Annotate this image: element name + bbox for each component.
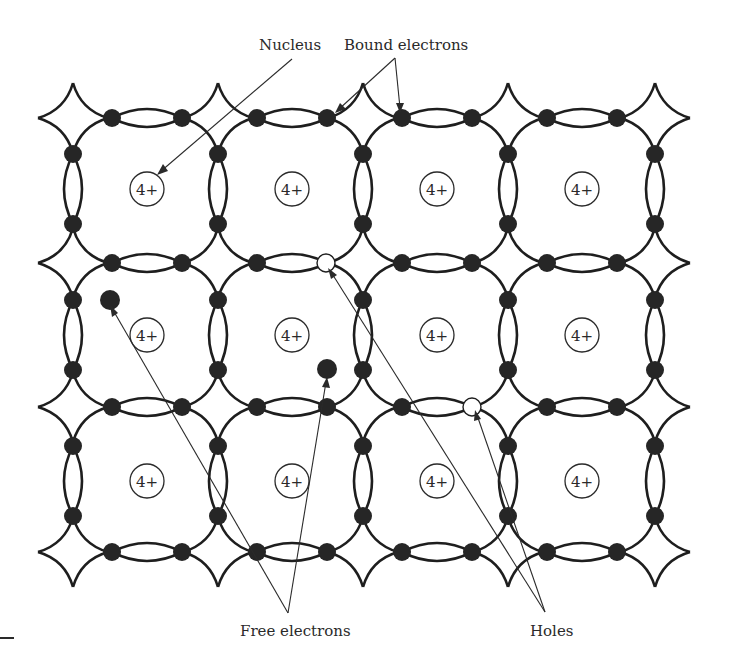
nucleus-charge: 4+ — [281, 473, 303, 491]
bond-lens — [112, 109, 182, 127]
bond-arc — [508, 407, 543, 442]
nucleus-charge: 4+ — [136, 473, 158, 491]
bond-arc — [218, 83, 253, 118]
bond-arc — [620, 407, 655, 442]
bond-lens — [112, 254, 182, 272]
nucleus-charge: 4+ — [281, 181, 303, 199]
bound-electron — [64, 215, 82, 233]
bound-electron — [538, 398, 556, 416]
holes-label: Holes — [530, 622, 573, 640]
bound-electron — [646, 215, 664, 233]
bond-arc — [655, 83, 690, 118]
bound-electron — [499, 291, 517, 309]
bond-lens — [64, 300, 82, 370]
bond-arc — [363, 228, 398, 263]
bound-electron — [393, 543, 411, 561]
bound-electron — [499, 437, 517, 455]
bond-lens — [112, 398, 182, 416]
bond-arc — [508, 83, 543, 118]
bond-lens — [354, 154, 372, 224]
bond-arc — [73, 83, 108, 118]
nucleus: 4+ — [565, 172, 599, 206]
bound-electron — [64, 437, 82, 455]
bond-arc — [620, 552, 655, 587]
bond-arc — [38, 228, 73, 263]
bound-electron — [608, 254, 626, 272]
bond-arc — [655, 407, 690, 442]
bound-electron — [538, 109, 556, 127]
nucleus: 4+ — [130, 318, 164, 352]
bound-electron — [209, 507, 227, 525]
bound-electron — [646, 291, 664, 309]
nucleus: 4+ — [565, 464, 599, 498]
bound-electron — [646, 437, 664, 455]
bound-electron — [393, 254, 411, 272]
bound-electron — [209, 291, 227, 309]
bound-electron — [173, 543, 191, 561]
holes — [317, 254, 481, 416]
bond-lens — [402, 109, 472, 127]
bound-electron — [463, 254, 481, 272]
bond-lens — [646, 446, 664, 516]
nucleus-charge: 4+ — [571, 181, 593, 199]
bound-electron — [64, 291, 82, 309]
bound-electron — [393, 398, 411, 416]
bond-lens — [402, 543, 472, 561]
bond-lens — [547, 254, 617, 272]
bond-lens — [646, 300, 664, 370]
nucleus: 4+ — [275, 318, 309, 352]
bound-electron — [354, 291, 372, 309]
nucleus-charge: 4+ — [571, 473, 593, 491]
bound-electron — [538, 254, 556, 272]
nucleus-charge: 4+ — [571, 327, 593, 345]
nucleus: 4+ — [130, 172, 164, 206]
nucleus: 4+ — [420, 464, 454, 498]
bound-electron — [209, 215, 227, 233]
bond-arc — [73, 552, 108, 587]
bound-electron — [64, 361, 82, 379]
nucleus: 4+ — [420, 318, 454, 352]
bond-arc — [38, 83, 73, 118]
bound-electron — [646, 507, 664, 525]
bound-electron — [64, 507, 82, 525]
bound-electron — [248, 398, 266, 416]
bond-arc — [218, 552, 253, 587]
bound-electron — [209, 361, 227, 379]
bound-electron — [499, 145, 517, 163]
bond-arc — [363, 407, 398, 442]
bond-lens — [402, 254, 472, 272]
bond-arc — [38, 407, 73, 442]
bound-electrons-label: Bound electrons — [344, 36, 468, 54]
bound-electron — [354, 215, 372, 233]
semiconductor-lattice-diagram: 4+4+4+4+4+4+4+4+4+4+4+4+ Nucleus Bound e… — [0, 0, 740, 656]
bound-electron — [103, 543, 121, 561]
bound-electron — [608, 109, 626, 127]
bound-electron — [173, 109, 191, 127]
bond-arc — [73, 228, 108, 263]
bond-lens — [257, 543, 327, 561]
bond-arc — [73, 407, 108, 442]
bound-electron — [209, 437, 227, 455]
free-electron — [317, 359, 337, 379]
nucleus-charge: 4+ — [426, 181, 448, 199]
bound-electron — [103, 254, 121, 272]
bond-lens — [354, 446, 372, 516]
bond-lens — [112, 543, 182, 561]
bond-arc — [655, 228, 690, 263]
bond-lens — [547, 398, 617, 416]
nucleus-charge: 4+ — [136, 327, 158, 345]
bond-arc — [655, 552, 690, 587]
bond-lens — [646, 154, 664, 224]
bound-electron — [463, 109, 481, 127]
bond-lens — [547, 109, 617, 127]
bound-electron — [103, 109, 121, 127]
bound-electron — [646, 361, 664, 379]
nucleus-charge: 4+ — [281, 327, 303, 345]
bound-electron — [354, 361, 372, 379]
nucleus-charge: 4+ — [136, 181, 158, 199]
bond-lens — [209, 300, 227, 370]
bound-electron — [248, 109, 266, 127]
bound-electron — [173, 254, 191, 272]
nucleus: 4+ — [565, 318, 599, 352]
bond-lens — [547, 543, 617, 561]
